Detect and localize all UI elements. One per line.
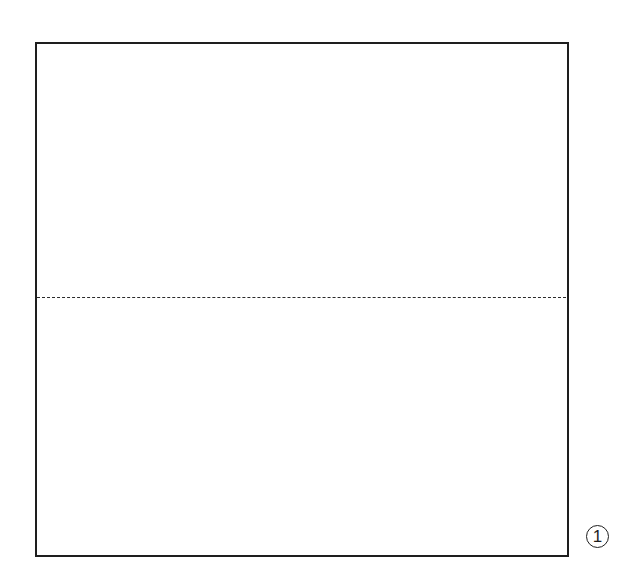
step-number: 1 (593, 528, 602, 545)
step-number-badge: 1 (586, 525, 609, 548)
paper-square (35, 42, 569, 557)
valley-fold-line (37, 297, 566, 298)
